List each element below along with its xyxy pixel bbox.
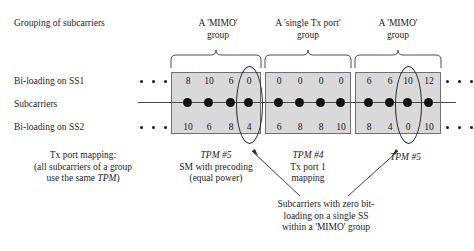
cell-ss2: 10 bbox=[331, 122, 351, 132]
subcarrier-dot bbox=[364, 98, 373, 107]
ellipsis-dot bbox=[458, 80, 461, 83]
cell-ss2: 8 bbox=[359, 122, 379, 132]
group-caption-1-line2: group bbox=[175, 30, 261, 42]
cell-ss2: 8 bbox=[311, 122, 331, 132]
cell-ss1: 10 bbox=[199, 76, 219, 86]
ellipsis-dot bbox=[458, 126, 461, 129]
zero-bitloading-note: Subcarriers with zero bit- loading on a … bbox=[244, 199, 408, 234]
ellipsis-dot bbox=[446, 80, 449, 83]
tpm-desc-2-line2: mapping bbox=[271, 173, 345, 185]
cell-ss2: 10 bbox=[178, 122, 198, 132]
group-caption-3-line2: group bbox=[355, 30, 441, 42]
tpm-desc-2-line1: Tx port 1 bbox=[271, 162, 345, 174]
cell-ss2: 6 bbox=[199, 122, 219, 132]
subcarrier-dot bbox=[336, 98, 345, 107]
tpm-annotation-1: TPM #5 SM with precoding (equal power) bbox=[166, 150, 266, 185]
tx-port-mapping-line3-ital: TPM bbox=[97, 173, 116, 183]
subcarrier-dot bbox=[274, 98, 283, 107]
ellipsis-dot bbox=[140, 80, 143, 83]
tx-port-mapping-line3-post: ) bbox=[116, 173, 119, 183]
cell-ss1: 0 bbox=[331, 76, 351, 86]
group-caption-3-line1: A 'MIMO' bbox=[355, 18, 441, 30]
ellipsis-dot bbox=[152, 80, 155, 83]
row-label-ss1: Bi-loading on SS1 bbox=[14, 76, 84, 88]
ellipsis-dot bbox=[470, 126, 473, 129]
tpm-desc-1-line1: SM with precoding bbox=[166, 162, 266, 174]
tx-port-mapping-line1: Tx port mapping: bbox=[8, 150, 158, 162]
cell-ss1: 0 bbox=[290, 76, 310, 86]
group-caption-1: A 'MIMO' group bbox=[175, 18, 261, 41]
tpm-annotation-2: TPM #4 Tx port 1 mapping bbox=[271, 150, 345, 185]
cell-ss1: 12 bbox=[419, 76, 439, 86]
zero-note-line2: loading on a single SS bbox=[244, 211, 408, 223]
cell-ss1: 8 bbox=[178, 76, 198, 86]
cell-ss2: 6 bbox=[269, 122, 289, 132]
cell-ss1: 6 bbox=[359, 76, 379, 86]
ellipsis-dot bbox=[446, 126, 449, 129]
row-label-ss2: Bi-loading on SS2 bbox=[14, 122, 84, 134]
subcarrier-dot bbox=[385, 98, 394, 107]
cell-ss1: 0 bbox=[311, 76, 331, 86]
subcarrier-dot bbox=[424, 98, 433, 107]
zero-note-line1: Subcarriers with zero bit- bbox=[244, 199, 408, 211]
group-caption-2-line1: A 'single Tx port' bbox=[260, 18, 356, 30]
row-label-subcarriers: Subcarriers bbox=[14, 99, 57, 111]
zero-bitloading-highlight-2 bbox=[395, 66, 422, 144]
group-caption-2-line2: group bbox=[260, 30, 356, 42]
ellipsis-dot bbox=[140, 126, 143, 129]
figure-root: Grouping of subcarriers A 'MIMO' group A… bbox=[0, 0, 474, 251]
page-title: Grouping of subcarriers bbox=[14, 18, 105, 30]
group-caption-2: A 'single Tx port' group bbox=[260, 18, 356, 41]
tpm-desc-1-line2: (equal power) bbox=[166, 173, 266, 185]
subcarrier-dot bbox=[183, 98, 192, 107]
tx-port-mapping-line3: use the same TPM) bbox=[8, 173, 158, 185]
subcarrier-dot bbox=[204, 98, 213, 107]
cell-ss2: 10 bbox=[419, 122, 439, 132]
ellipsis-dot bbox=[470, 80, 473, 83]
tpm-label-2: TPM #4 bbox=[271, 150, 345, 162]
group-caption-3: A 'MIMO' group bbox=[355, 18, 441, 41]
ellipsis-dot bbox=[152, 126, 155, 129]
tpm-label-1: TPM #5 bbox=[166, 150, 266, 162]
tx-port-mapping-caption: Tx port mapping: (all subcarriers of a g… bbox=[8, 150, 158, 185]
zero-bitloading-highlight-1 bbox=[236, 66, 263, 144]
cell-ss1: 0 bbox=[269, 76, 289, 86]
zero-note-line3: within a 'MIMO' group bbox=[244, 222, 408, 234]
ellipsis-dot bbox=[164, 126, 167, 129]
subcarrier-dot bbox=[226, 98, 235, 107]
subcarrier-dot bbox=[316, 98, 325, 107]
ellipsis-dot bbox=[164, 80, 167, 83]
group-caption-1-line1: A 'MIMO' bbox=[175, 18, 261, 30]
tx-port-mapping-line2: (all subcarriers of a group bbox=[8, 162, 158, 174]
tx-port-mapping-line3-pre: use the same bbox=[46, 173, 97, 183]
cell-ss2: 8 bbox=[290, 122, 310, 132]
subcarrier-dot bbox=[295, 98, 304, 107]
tpm-label-3: TPM #5 bbox=[390, 152, 460, 164]
